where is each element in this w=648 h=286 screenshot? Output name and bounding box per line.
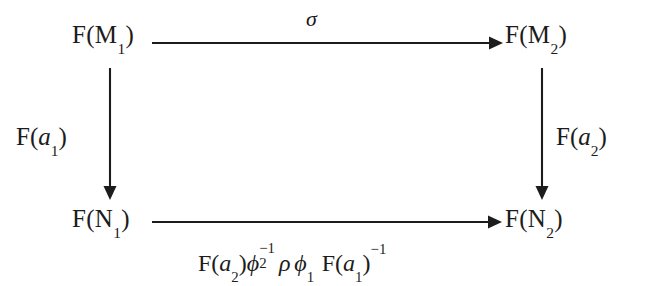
bottom-term1-functor: F [198, 250, 211, 276]
commutative-diagram: F(M1) F(M2) F(N1) F(N2) σ F(a1) F(a2) F(… [0, 0, 648, 286]
node-bottom-right-functor: F [505, 205, 519, 232]
edge-label-right: F(a2) [556, 124, 607, 149]
node-bottom-right: F(N2) [505, 206, 563, 231]
edge-right-functor: F [556, 123, 570, 150]
bottom-term2-phi: ϕ [247, 250, 259, 276]
node-top-left-object: M [95, 21, 118, 48]
edge-label-left: F(a1) [16, 124, 67, 149]
bottom-term2-sub: 2 [259, 256, 275, 270]
bottom-term4-sub: 1 [307, 269, 314, 285]
node-top-right-object: M [528, 21, 551, 48]
node-top-right-functor: F [505, 21, 519, 48]
node-bottom-right-object: N [528, 205, 546, 232]
node-bottom-left-functor: F [72, 205, 86, 232]
edge-right-arg: a [578, 123, 591, 150]
node-bottom-left-object: N [95, 205, 113, 232]
edge-left-index: 1 [51, 142, 59, 159]
node-top-left-functor: F [72, 21, 86, 48]
edge-label-top: σ [306, 8, 317, 30]
node-top-left-index: 1 [117, 40, 125, 57]
bottom-term5-sup: −1 [371, 241, 387, 257]
bottom-term5-functor: F [322, 250, 335, 276]
edge-left-functor: F [16, 123, 30, 150]
bottom-term1-index: 2 [231, 269, 238, 285]
node-top-right-index: 2 [550, 40, 558, 57]
bottom-term2-subsup: −12 [259, 241, 275, 269]
edge-left-arg: a [38, 123, 51, 150]
bottom-term3-rho: ρ [279, 250, 291, 276]
node-bottom-left-index: 1 [113, 224, 121, 241]
edge-right-index: 2 [591, 142, 599, 159]
sigma-symbol: σ [306, 6, 317, 31]
bottom-term5-arg: a [343, 250, 355, 276]
bottom-term5-index: 1 [355, 269, 362, 285]
node-bottom-right-index: 2 [546, 224, 554, 241]
node-bottom-left: F(N1) [72, 206, 130, 231]
bottom-term1-arg: a [219, 250, 231, 276]
node-top-right: F(M2) [505, 22, 567, 47]
bottom-term2-sup: −1 [259, 241, 275, 255]
edge-label-bottom: F(a2)ϕ−12ρϕ1F(a1)−1 [198, 245, 386, 275]
node-top-left: F(M1) [72, 22, 134, 47]
bottom-term4-phi: ϕ [294, 250, 306, 276]
